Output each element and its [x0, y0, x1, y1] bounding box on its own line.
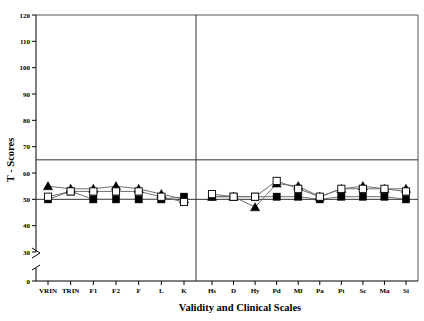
marker-open-square [230, 193, 237, 200]
marker-open-square [359, 185, 366, 192]
y-axis-tick-labels: 030405060708090100110120 [20, 12, 31, 286]
y-tick-label: 110 [20, 38, 31, 46]
marker-open-square [112, 188, 119, 195]
data-series-layer [43, 177, 410, 211]
marker-filled-square [90, 196, 97, 203]
y-tick-label: 100 [20, 64, 31, 72]
x-tick-label-trin: TRIN [62, 287, 80, 295]
x-axis-ticks [48, 281, 406, 285]
marker-open-square [252, 193, 259, 200]
x-tick-label-f2: F2 [112, 287, 120, 295]
marker-open-square [381, 185, 388, 192]
marker-filled-square [295, 193, 302, 200]
y-tick-label: 50 [23, 196, 31, 204]
chart-canvas: 030405060708090100110120 VRINTRINF1F2FLK… [0, 0, 424, 321]
y-tick-label: 120 [20, 12, 31, 20]
marker-open-square [135, 188, 142, 195]
x-tick-label-vrin: VRIN [39, 287, 57, 295]
marker-open-square [67, 188, 74, 195]
marker-open-square [44, 193, 51, 200]
marker-filled-square [359, 193, 366, 200]
x-tick-label-si: Si [403, 287, 409, 295]
y-tick-label: 0 [27, 278, 31, 286]
marker-filled-triangle [43, 182, 52, 190]
y-tick-label: 60 [23, 170, 31, 178]
marker-filled-square [338, 193, 345, 200]
x-tick-label-pa: Pa [316, 287, 324, 295]
series-1-markers [43, 179, 410, 211]
marker-filled-square [273, 193, 280, 200]
y-tick-label: 90 [23, 91, 31, 99]
series-segment [212, 184, 406, 208]
marker-filled-square [135, 196, 142, 203]
x-tick-label-l: L [159, 287, 164, 295]
y-axis-ticks [32, 15, 36, 281]
x-tick-label-mf: Mf [294, 287, 304, 295]
marker-open-square [208, 190, 215, 197]
mmpi-profile-chart: 030405060708090100110120 VRINTRINF1F2FLK… [0, 0, 424, 321]
marker-open-square [295, 185, 302, 192]
series-2-line [48, 191, 406, 199]
x-tick-label-hy: Hy [251, 287, 260, 295]
series-2-markers [44, 188, 409, 203]
series-segment [212, 181, 406, 197]
x-tick-label-pd: Pd [273, 287, 281, 295]
x-tick-label-k: K [181, 287, 187, 295]
x-tick-label-d: D [231, 287, 236, 295]
marker-open-square [402, 188, 409, 195]
x-tick-label-pt: Pt [338, 287, 345, 295]
marker-open-square [316, 193, 323, 200]
x-axis-tick-labels: VRINTRINF1F2FLKHsDHyPdMfPaPtScMaSi [39, 287, 409, 295]
x-tick-label-ma: Ma [379, 287, 390, 295]
x-tick-label-f: F [137, 287, 141, 295]
plot-frame [36, 15, 418, 281]
x-tick-label-sc: Sc [359, 287, 366, 295]
x-tick-label-hs: Hs [208, 287, 216, 295]
marker-open-square [158, 193, 165, 200]
y-axis-title: T - Scores [5, 138, 16, 183]
marker-filled-square [402, 196, 409, 203]
series-1-line [48, 184, 406, 208]
x-tick-label-f1: F1 [89, 287, 97, 295]
marker-filled-square [112, 196, 119, 203]
y-tick-label: 70 [23, 143, 31, 151]
marker-open-square [180, 198, 187, 205]
marker-open-square [338, 185, 345, 192]
marker-filled-square [381, 193, 388, 200]
y-tick-label: 40 [23, 222, 31, 230]
y-tick-label: 30 [23, 249, 31, 257]
y-tick-label: 80 [23, 117, 31, 125]
marker-open-square [273, 177, 280, 184]
x-axis-title: Validity and Clinical Scales [179, 302, 301, 313]
marker-open-square [90, 188, 97, 195]
